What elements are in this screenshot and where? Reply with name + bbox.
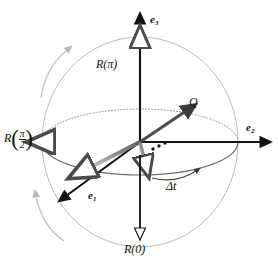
left-paren: ( bbox=[11, 131, 18, 147]
right-paren: ) bbox=[26, 131, 33, 147]
axis-label-e2-sub: 2 bbox=[251, 127, 254, 134]
label-q: Q bbox=[189, 96, 198, 108]
fraction-denominator: 2 bbox=[19, 139, 26, 150]
diagram-svg bbox=[0, 0, 278, 265]
axis-label-e2: e2 bbox=[246, 122, 254, 135]
label-r-zero: R(0) bbox=[124, 243, 145, 255]
ellipsis-dot bbox=[163, 141, 166, 144]
ellipsis-dot bbox=[151, 147, 154, 150]
label-r-pi: R(π) bbox=[96, 58, 117, 70]
figure-canvas: e3 e2 e1 R(π) R(0) Q Δt R(π2) bbox=[0, 0, 278, 265]
axis-label-e3-sub: 3 bbox=[155, 19, 158, 26]
axis-label-e3: e3 bbox=[150, 14, 158, 27]
axis-label-e1: e1 bbox=[88, 190, 96, 203]
ellipsis-dot bbox=[157, 144, 160, 147]
label-delta-t: Δt bbox=[166, 180, 176, 192]
label-r-half-pi-prefix: R bbox=[4, 131, 11, 145]
label-r-half-pi: R(π2) bbox=[4, 129, 33, 150]
fraction-pi-over-two: π2 bbox=[19, 129, 26, 150]
fraction-numerator: π bbox=[19, 129, 26, 139]
axis-label-e1-sub: 1 bbox=[93, 195, 96, 202]
